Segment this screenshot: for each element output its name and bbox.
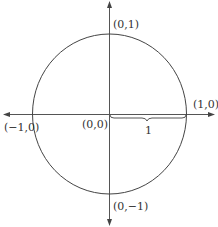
- label-top-point: (0,1): [113, 18, 139, 31]
- x-axis-right-arrow-icon: [208, 112, 215, 117]
- label-radius: 1: [145, 124, 152, 137]
- label-left-point: (−1,0): [4, 121, 39, 134]
- y-axis-bottom-arrow-icon: [107, 219, 112, 226]
- radius-brace: [110, 115, 186, 121]
- label-origin: (0,0): [82, 118, 108, 131]
- label-right-point: (1,0): [193, 98, 218, 111]
- y-axis-top-arrow-icon: [107, 1, 112, 8]
- unit-circle-diagram: (0,1) (1,0) (−1,0) (0,0) (0,−1) 1: [0, 0, 218, 227]
- label-bottom-point: (0,−1): [113, 200, 148, 213]
- x-axis-left-arrow-icon: [3, 112, 10, 117]
